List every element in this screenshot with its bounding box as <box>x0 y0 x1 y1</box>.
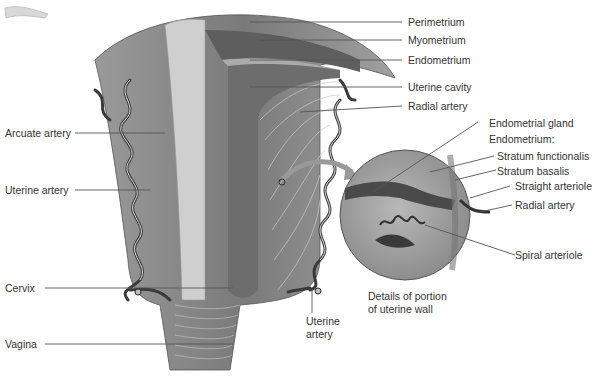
uterine-wall-detail <box>340 150 490 280</box>
label-stratum-basalis: Stratum basalis <box>497 165 569 177</box>
label-radial-artery: Radial artery <box>408 100 468 112</box>
label-myometrium: Myometrium <box>408 34 466 46</box>
detail-caption-line1: Details of portion <box>368 290 447 303</box>
label-vagina: Vagina <box>5 338 37 350</box>
uterine-artery-line2: artery <box>306 328 340 341</box>
uterine-artery-cut-end-left <box>135 289 141 295</box>
label-perimetrium: Perimetrium <box>408 16 465 28</box>
label-uterine-cavity: Uterine cavity <box>408 81 472 93</box>
label-endometrium: Endometrium <box>408 54 470 66</box>
label-uterine-artery-bottom: Uterine artery <box>306 315 340 341</box>
label-stratum-functionalis: Stratum functionalis <box>497 150 589 162</box>
detail-caption: Details of portion of uterine wall <box>368 290 447 316</box>
label-radial-artery-detail: Radial artery <box>515 199 575 211</box>
detail-caption-line2: of uterine wall <box>368 303 447 316</box>
uterine-artery-line1: Uterine <box>306 315 340 328</box>
label-cervix: Cervix <box>5 282 35 294</box>
label-spiral-arteriole: Spiral arteriole <box>515 249 583 261</box>
label-uterine-artery-left: Uterine artery <box>5 184 69 196</box>
uterine-artery-cut-end <box>315 288 321 294</box>
fallopian-tube-fragment <box>5 7 48 18</box>
label-endometrial-gland: Endometrial gland <box>489 117 574 129</box>
label-endometrium-heading: Endometrium: <box>489 133 554 145</box>
label-straight-arteriole: Straight arteriole <box>515 180 592 192</box>
label-arcuate-artery: Arcuate artery <box>5 127 71 139</box>
